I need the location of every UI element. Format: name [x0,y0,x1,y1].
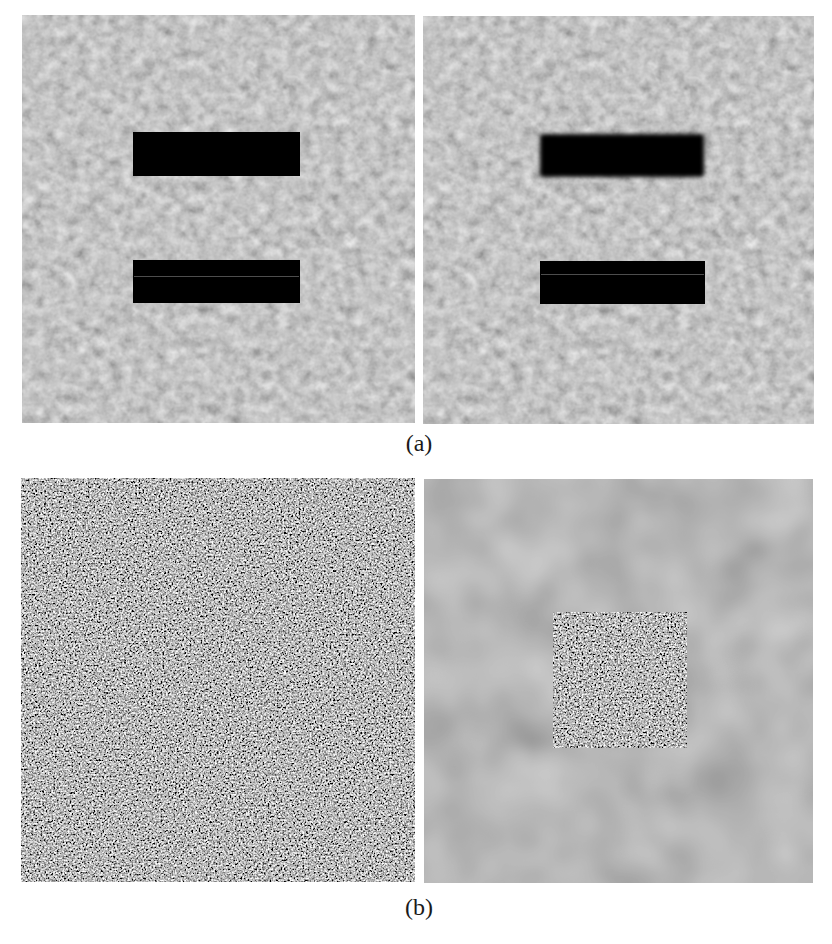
caption-b: (b) [379,893,459,921]
panel-b-right [424,479,813,883]
gray-texture [423,16,814,424]
panel-a-left [22,15,415,423]
bottom-bar-faint-line [541,274,704,275]
top-bar-blurred [540,134,704,177]
figure: (a) (b) [0,0,832,944]
gray-texture [22,15,415,423]
noise-square [553,612,687,748]
bottom-bar-faint-line [134,276,299,277]
caption-a: (a) [379,429,459,457]
top-bar-sharp [133,132,300,176]
noise-texture [21,478,415,882]
noise-texture [553,612,687,748]
bottom-bar-sharp [540,261,705,304]
bottom-bar-sharp [133,260,300,303]
panel-a-right [423,16,814,424]
panel-b-left [21,478,415,882]
